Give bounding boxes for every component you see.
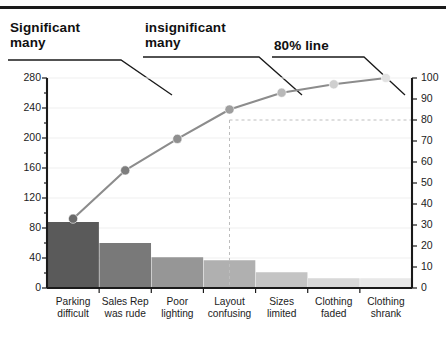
bar[interactable] — [47, 222, 99, 288]
category-label-line: limited — [256, 308, 308, 320]
category-label-line: was rude — [99, 308, 151, 320]
category-label-line: Clothing — [308, 296, 360, 308]
category-label-line: difficult — [47, 308, 99, 320]
annotation-leader-lines — [8, 57, 405, 95]
bar[interactable] — [360, 278, 412, 288]
category-label-line: Sizes — [256, 296, 308, 308]
y2-axis-tick-label: 50 — [421, 176, 446, 188]
x-axis-category-label: Poorlighting — [151, 296, 203, 320]
bar[interactable] — [308, 278, 360, 288]
category-label-line: faded — [308, 308, 360, 320]
y2-axis-tick-label: 100 — [421, 71, 446, 83]
y2-axis-tick-label: 20 — [421, 239, 446, 251]
cumulative-point[interactable] — [225, 105, 234, 114]
y-axis-tick-label: 40 — [1, 251, 41, 263]
reference-line-80 — [230, 120, 413, 288]
x-axis-category-label: Clothingshrank — [360, 296, 412, 320]
plot-area — [42, 73, 417, 293]
category-label-line: Poor — [151, 296, 203, 308]
x-axis-category-label: Sizeslimited — [256, 296, 308, 320]
y2-axis-tick-label: 80 — [421, 113, 446, 125]
y-axis-tick-label: 0 — [1, 281, 41, 293]
chart-canvas — [0, 0, 446, 340]
cumulative-point[interactable] — [173, 134, 182, 143]
x-axis-category-label: Sales Repwas rude — [99, 296, 151, 320]
category-label-line: Parking — [47, 296, 99, 308]
y-axis-tick-label: 120 — [1, 191, 41, 203]
y2-axis-tick-label: 90 — [421, 92, 446, 104]
cumulative-point[interactable] — [381, 73, 390, 82]
category-label-line: lighting — [151, 308, 203, 320]
category-label-line: shrank — [360, 308, 412, 320]
bar[interactable] — [152, 257, 204, 288]
category-label-line: Sales Rep — [99, 296, 151, 308]
bar[interactable] — [99, 243, 151, 288]
cumulative-point[interactable] — [68, 214, 77, 223]
x-axis-category-label: Clothingfaded — [308, 296, 360, 320]
y-axis-tick-label: 200 — [1, 131, 41, 143]
category-label-line: Layout — [203, 296, 255, 308]
cumulative-point[interactable] — [277, 88, 286, 97]
cumulative-point[interactable] — [329, 80, 338, 89]
y2-axis-tick-label: 40 — [421, 197, 446, 209]
y-axis-tick-label: 240 — [1, 101, 41, 113]
x-axis-category-label: Layoutconfusing — [203, 296, 255, 320]
y2-axis-tick-label: 60 — [421, 155, 446, 167]
y-axis-tick-label: 280 — [1, 71, 41, 83]
y2-axis-tick-label: 10 — [421, 260, 446, 272]
x-axis-category-label: Parkingdifficult — [47, 296, 99, 320]
y-axis-tick-label: 80 — [1, 221, 41, 233]
category-label-line: Clothing — [360, 296, 412, 308]
bar[interactable] — [256, 272, 308, 288]
cumulative-point[interactable] — [121, 166, 130, 175]
y2-axis-tick-label: 0 — [421, 281, 446, 293]
y2-axis-tick-label: 30 — [421, 218, 446, 230]
pareto-chart-figure: Significant many insignificant many 80% … — [0, 0, 446, 340]
y2-axis-tick-label: 70 — [421, 134, 446, 146]
category-label-line: confusing — [203, 308, 255, 320]
y-axis-tick-label: 160 — [1, 161, 41, 173]
